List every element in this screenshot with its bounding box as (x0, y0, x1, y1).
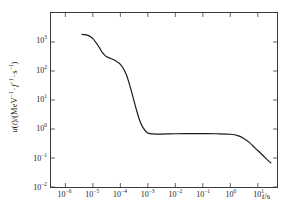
y-tick-label: 102 (36, 67, 47, 75)
x-tick-label: 10−4 (113, 191, 127, 199)
y-axis-title-close: ) (9, 62, 19, 65)
y-axis-exp-s: −1 (8, 64, 14, 70)
x-tick-label: 10−3 (141, 191, 155, 199)
data-series-line (82, 34, 271, 163)
y-axis-exp-mev: −1 (8, 92, 14, 98)
y-tick-label: 103 (36, 37, 47, 45)
x-axis-ticks (65, 13, 257, 187)
plot-area (50, 12, 278, 188)
x-axis-title: t/s (262, 191, 270, 201)
x-tick-label: 10−1 (196, 191, 210, 199)
y-axis-ticks (51, 42, 277, 187)
y-axis-title: u(t)/(MeV−1·f−1·s−1) (9, 17, 19, 177)
x-tick-label: 100 (226, 191, 237, 199)
x-tick-label: 10−5 (85, 191, 99, 199)
dot-separator-1: · (9, 87, 19, 92)
plot-canvas (51, 13, 277, 187)
x-tick-label: 10−6 (58, 191, 72, 199)
y-axis-title-mid: )/(MeV (9, 97, 19, 123)
y-tick-label: 100 (36, 125, 47, 133)
y-tick-label-group: 10310210110010−110−2 (18, 0, 47, 220)
x-axis-title-unit: /s (264, 191, 270, 201)
y-axis-title-var: t (9, 123, 19, 125)
y-axis-title-f: f (9, 84, 19, 86)
y-tick-label: 10−2 (33, 184, 47, 192)
y-axis-title-prefix: u (9, 128, 19, 132)
x-tick-label: 10−2 (168, 191, 182, 199)
dot-separator-2: · (9, 74, 19, 79)
y-axis-title-s: s (9, 70, 19, 73)
y-tick-label: 101 (36, 96, 47, 104)
y-tick-label: 10−1 (33, 155, 47, 163)
chart-figure: 10−610−510−410−310−210−1100101 103102101… (0, 0, 294, 220)
y-axis-exp-f: −1 (8, 78, 14, 84)
